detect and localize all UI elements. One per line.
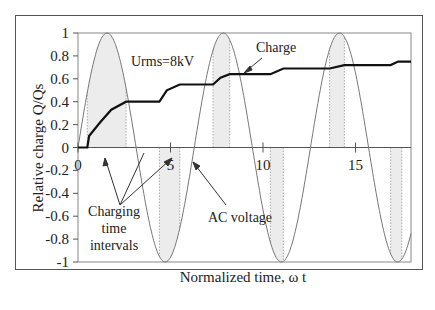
charge-annotation: Charge bbox=[256, 40, 296, 55]
charging-annotation-1: Charging bbox=[88, 204, 140, 219]
y-tick-label: 1 bbox=[62, 25, 70, 41]
annotation-arrows bbox=[103, 58, 262, 205]
x-tick-label: 15 bbox=[348, 157, 363, 173]
y-tick-label: 0 bbox=[62, 140, 70, 156]
x-tick-label: 0 bbox=[74, 157, 82, 173]
chart: 10.80.60.40.20-0.2-0.4-0.6-0.8-1051015 R… bbox=[0, 0, 435, 310]
x-axis-label: Normalized time, ω t bbox=[180, 269, 307, 285]
y-tick-label: 0.4 bbox=[50, 94, 69, 110]
y-tick-label: -0.4 bbox=[45, 185, 69, 201]
ac-voltage-annotation: AC voltage bbox=[208, 210, 272, 225]
y-tick-label: -0.8 bbox=[45, 231, 69, 247]
x-tick-label: 10 bbox=[256, 157, 271, 173]
y-tick-label: -1 bbox=[57, 254, 70, 270]
charging-annotation-3: intervals bbox=[90, 238, 138, 253]
y-tick-label: 0.8 bbox=[50, 48, 69, 64]
urms-annotation: Urms=8kV bbox=[131, 54, 194, 69]
y-tick-label: -0.6 bbox=[45, 208, 69, 224]
y-axis-label: Relative charge Q/Qs bbox=[30, 83, 46, 212]
charging-annotation-2: time bbox=[102, 221, 127, 236]
y-tick-label: -0.2 bbox=[45, 162, 69, 178]
y-tick-label: 0.2 bbox=[50, 117, 69, 133]
y-tick-label: 0.6 bbox=[50, 71, 69, 87]
